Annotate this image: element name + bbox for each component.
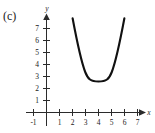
x-tick-label: 7 bbox=[136, 118, 140, 127]
y-axis-arrow-icon bbox=[43, 14, 50, 21]
x-tick-label: 2 bbox=[71, 118, 75, 127]
y-tick-label: 7 bbox=[35, 24, 39, 33]
x-tick-label: 5 bbox=[110, 118, 114, 127]
graph-plot: -1 1 2 3 4 5 6 7 1 2 3 4 5 6 7 x y bbox=[0, 0, 155, 133]
x-tick-label: 1 bbox=[58, 118, 62, 127]
y-tick-label: 6 bbox=[35, 36, 39, 45]
x-tick-label: -1 bbox=[30, 118, 36, 127]
y-tick-label: 3 bbox=[35, 72, 39, 81]
y-tick-label: 5 bbox=[35, 48, 39, 57]
x-tick-label: 3 bbox=[84, 118, 88, 127]
x-tick-label: 6 bbox=[123, 118, 127, 127]
y-tick-label: 4 bbox=[35, 60, 39, 69]
figure-container: (c) -1 bbox=[0, 0, 155, 133]
y-tick-label: 1 bbox=[35, 96, 39, 105]
parabola-curve bbox=[73, 18, 125, 81]
x-axis-label: x bbox=[146, 108, 151, 117]
x-tick-label: 4 bbox=[97, 118, 101, 127]
x-axis-arrow-icon bbox=[139, 109, 146, 116]
y-tick-label: 2 bbox=[35, 84, 39, 93]
y-axis-label: y bbox=[44, 4, 49, 13]
